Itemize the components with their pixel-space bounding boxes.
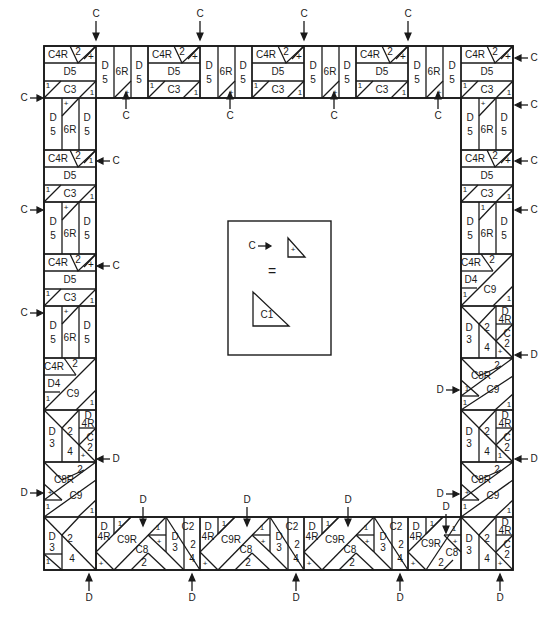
piece-label: 2 [294,539,300,550]
piece-label: 2 [492,46,498,57]
piece-label: D [379,531,386,542]
arrow-annotation-left: D [515,453,538,464]
piece-label: D [413,60,420,71]
piece-label: 6R [64,332,77,343]
piece-label: C3 [376,84,389,95]
c4r-block-left-2: C4R 2 + D5 1 C3 1 [44,254,96,306]
arrow-left-icon [515,55,521,61]
piece-label: 2 [438,557,444,568]
d3-section-right-2: D 3 2 4 D 4R C 2 1 [461,410,513,462]
piece-label: 2 [75,150,81,161]
piece-label: 5 [50,126,56,137]
piece-label: C9R [117,534,137,545]
arrow-label: C [20,307,27,318]
piece-label: 1 [507,294,512,303]
piece-label: D5 [168,66,181,77]
arrow-label: C [404,8,411,19]
c4r-block-top-3: C4R 2 + D5 1 C3 1 [252,46,304,98]
piece-label: 6R [220,66,233,77]
arrow-annotation-right: C [20,92,43,103]
arrow-left-icon [515,352,521,358]
piece-label: 1 [298,88,303,97]
piece-label: 6R [481,228,494,239]
piece-label: 3 [172,542,178,553]
piece-label: 1 [402,88,407,97]
piece-label: 5 [136,74,142,85]
c4r-block-left-1: C4R 2 1 D5 1 C3 1 [44,150,96,202]
piece-label: C3 [481,84,494,95]
arrow-down-icon [140,519,146,526]
strip-top-3: D 5 6R + D 5 [304,46,356,98]
piece-label: D [83,216,90,227]
c4r-block-right-1: C4R 2 + D5 1 C3 1 [461,150,513,202]
piece-label: + [48,488,53,497]
piece-label: 1 [118,519,123,528]
strip-left-2: + D 5 6R D 5 [44,202,96,254]
arrow-down-icon [405,33,411,40]
piece-label: 4R [499,525,512,536]
piece-label: 1 [150,81,155,90]
piece-label: + [64,307,69,316]
piece-label: + [261,537,266,546]
strip-left-3: + D 5 6R D 5 [44,306,96,358]
arrow-left-icon [97,263,103,269]
piece-label: 4 [484,553,490,564]
piece-label: 2 [398,539,404,550]
strip-top-4: D 5 6R + D 5 [408,46,461,98]
piece-label: + [481,99,486,108]
arrow-annotation-left: D [97,453,120,464]
piece-label: 3 [380,542,386,553]
c8r-section-right-1: 2 C8R 1 1 C9 1 [461,358,513,410]
piece-label: 5 [50,230,56,241]
piece-label: C9 [487,490,500,501]
arrow-label: D [436,384,443,395]
strip-right-2: 1 D 5 6R D 5 [461,202,513,254]
piece-label: + [498,559,503,568]
arrow-label: D [85,592,92,603]
arrow-annotation-left: C [515,155,538,166]
arrow-annotation-up: D [396,574,403,603]
piece-label: 2 [245,557,251,568]
piece-label: C8R [471,474,491,485]
arrow-annotation-down: C [404,8,411,40]
arrow-left-icon [515,456,521,462]
piece-label: 4R [499,314,512,325]
piece-label: 5 [501,126,507,137]
piece-label: C4R [256,49,276,60]
bottom-band: D 4R 1 C9R + 2 C8 1 + D 3 C2 2 4 [96,517,461,570]
c4r-block-top-4: C4R 2 + D5 1 C3 1 [356,46,408,98]
legend-arrow-label: C [248,240,255,251]
arrow-annotation-left: C [515,204,538,215]
piece-label: C8 [344,544,357,555]
piece-label: 2 [75,46,81,57]
piece-label: C2 [286,521,299,532]
piece-label: C4R [360,49,380,60]
piece-label: C9 [487,384,500,395]
arrow-annotation-down: D [139,494,146,526]
piece-label: + [505,51,511,62]
arrow-annotation-down: D [243,494,250,526]
arrow-label: D [436,488,443,499]
piece-label: 5 [310,74,316,85]
piece-label: D [49,112,56,123]
piece-label: 1 [254,81,259,90]
arrow-up-icon [497,574,503,581]
arrow-label: C [300,8,307,19]
piece-label: D5 [376,66,389,77]
piece-label: 4R [306,531,319,542]
piece-label: 3 [49,542,55,553]
c9-section-right: C4R 2 D4 1 C9 1 [461,254,513,306]
bottom-unit-4: D 4R 1 C9R + 2 C8 1 + [408,517,461,570]
arrow-down-icon [244,519,250,526]
arrow-label: D [496,592,503,603]
arrow-label: C [434,110,441,121]
arrow-up-icon [293,574,299,581]
piece-label: 2 [283,46,289,57]
piece-label: 1 [89,156,94,165]
piece-label: D [309,60,316,71]
piece-label: D [135,60,142,71]
piece-label: 1 [507,506,512,515]
piece-label: C4R [152,49,172,60]
piece-label: 2 [87,442,93,453]
arrow-label: C [20,204,27,215]
